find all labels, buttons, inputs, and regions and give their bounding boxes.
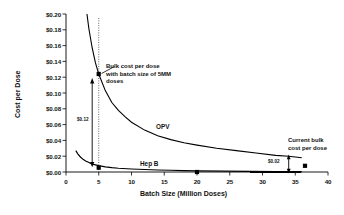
ytick-label-2: $0.04 <box>28 137 61 144</box>
y-axis-title: Cost per Dose <box>14 71 21 118</box>
annotation-current-bulk-line-1: Current bulk <box>288 137 327 145</box>
ytick-label-8: $0.16 <box>28 42 61 49</box>
marker-hepb-5mm <box>97 166 101 170</box>
ytick-label-10: $0.20 <box>28 11 61 18</box>
annotation-current-bulk-line-2: cost per dose <box>288 145 327 153</box>
value-label-delta-right: $0.02 <box>268 159 280 164</box>
delta-arrow-right <box>287 155 291 174</box>
series-label-hepb: Hep B <box>140 160 158 167</box>
series-label-opv: OPV <box>156 123 170 130</box>
xtick-label-8: 40 <box>318 178 338 185</box>
xtick-label-1: 5 <box>89 178 109 185</box>
value-label-delta-left: $0.12 <box>77 117 89 122</box>
marker-hepb-20mm <box>195 170 199 174</box>
xtick-label-6: 30 <box>253 178 273 185</box>
marker-opv-36mm <box>303 164 307 168</box>
marker-opv-5mm <box>97 72 101 76</box>
ytick-label-9: $0.18 <box>28 26 61 33</box>
annotation-bulk-cost-line-2: with batch size of 5MM <box>106 71 171 79</box>
ytick-label-4: $0.08 <box>28 105 61 112</box>
chart-figure: $0.00 $0.02 $0.04 $0.06 $0.08 $0.10 $0.1… <box>0 0 344 215</box>
xtick-label-3: 15 <box>154 178 174 185</box>
ytick-label-0: $0.00 <box>28 169 61 176</box>
ytick-label-3: $0.06 <box>28 121 61 128</box>
ytick-label-5: $0.10 <box>28 90 61 97</box>
ytick-label-1: $0.02 <box>28 153 61 160</box>
y-axis-ticks <box>63 14 67 172</box>
ytick-label-6: $0.12 <box>28 74 61 81</box>
series-curve-opv <box>87 14 302 158</box>
xtick-label-7: 35 <box>285 178 305 185</box>
x-axis-title: Batch Size (Million Doses) <box>140 190 227 197</box>
annotation-bulk-cost-line-1: Bulk cost per dose <box>106 63 171 71</box>
xtick-label-4: 20 <box>187 178 207 185</box>
annotation-current-bulk-cost: Current bulk cost per dose <box>288 137 327 152</box>
ytick-label-7: $0.14 <box>28 58 61 65</box>
xtick-label-2: 10 <box>122 178 142 185</box>
xtick-label-0: 0 <box>56 178 76 185</box>
delta-arrow-left <box>90 78 94 167</box>
xtick-label-5: 25 <box>220 178 240 185</box>
annotation-bulk-cost-line-3: doses <box>106 78 171 86</box>
annotation-bulk-cost: Bulk cost per dose with batch size of 5M… <box>106 63 171 86</box>
